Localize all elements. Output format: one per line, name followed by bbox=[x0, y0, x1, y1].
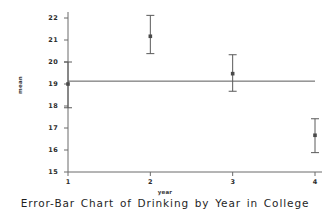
mean-marker bbox=[66, 82, 70, 86]
y-tick-label: 16 bbox=[36, 146, 58, 154]
error-bars-group bbox=[64, 15, 319, 152]
x-tick-label: 3 bbox=[225, 178, 241, 186]
y-tick-label: 20 bbox=[36, 58, 58, 66]
x-tick-label: 4 bbox=[307, 178, 323, 186]
x-tick-label: 2 bbox=[142, 178, 158, 186]
chart-title: Error-Bar Chart of Drinking by Year in C… bbox=[0, 197, 330, 209]
y-tick-label: 18 bbox=[36, 102, 58, 110]
x-tick-label: 1 bbox=[60, 178, 76, 186]
axes-group bbox=[64, 12, 322, 176]
y-tick-label: 19 bbox=[36, 80, 58, 88]
y-tick-label: 22 bbox=[36, 14, 58, 22]
y-tick-label: 21 bbox=[36, 36, 58, 44]
error-bar-point bbox=[146, 15, 154, 53]
error-bar-point bbox=[311, 119, 319, 153]
mean-marker bbox=[231, 72, 235, 76]
mean-marker bbox=[149, 34, 153, 38]
y-tick-label: 17 bbox=[36, 124, 58, 132]
mean-marker bbox=[313, 133, 317, 137]
error-bar-point bbox=[229, 55, 237, 92]
y-tick-label: 15 bbox=[36, 168, 58, 176]
x-axis-label: year bbox=[0, 189, 330, 195]
error-bar-chart: mean 1516171819202122 1234 year Error-Ba… bbox=[0, 0, 330, 218]
error-bar-point bbox=[64, 62, 72, 108]
